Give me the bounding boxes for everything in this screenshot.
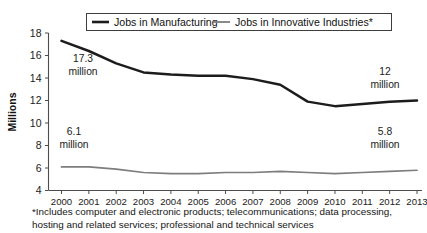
chart-axes [49,33,423,191]
x-tick-label: 2013 [406,196,427,207]
x-tick-label: 2001 [78,196,99,207]
y-tick-label: 8 [36,139,42,151]
annotation-innovative-start-unit: million [59,139,88,150]
x-tick-label: 2006 [215,196,236,207]
y-tick-label: 14 [30,72,42,84]
annotation-manufacturing-end-unit: million [370,79,399,90]
chart-canvas: Jobs in Manufacturing Jobs in Innovative… [0,0,427,233]
chart-annotations: 17.3 million 12 million 6.1 million 5.8 … [59,53,399,150]
legend-label-innovative: Jobs in Innovative Industries* [235,16,373,28]
annotation-innovative-start-value: 6.1 [67,126,82,137]
footnote-line-2: hosting and related services; profession… [32,219,314,230]
series-line-innovative [62,167,418,174]
chart-footnote: *Includes computer and electronic produc… [32,206,392,230]
y-tick-label: 16 [30,49,42,61]
footnote-line-1: *Includes computer and electronic produc… [32,206,392,217]
x-tick-label: 2002 [106,196,127,207]
chart-legend: Jobs in Manufacturing Jobs in Innovative… [87,14,392,31]
x-tick-label: 2012 [379,196,400,207]
legend-label-manufacturing: Jobs in Manufacturing [114,16,218,28]
y-tick-label: 10 [30,117,42,129]
y-tick-label: 12 [30,94,42,106]
y-axis-title: Millions [6,92,18,131]
y-tick-label: 6 [36,162,42,174]
x-tick-label: 2008 [270,196,291,207]
y-tick-label: 4 [36,184,42,196]
jobs-line-chart-figure: Jobs in Manufacturing Jobs in Innovative… [0,0,427,233]
annotation-innovative-end-unit: million [370,139,399,150]
chart-series [62,41,418,174]
x-tick-label: 2000 [51,196,72,207]
x-tick-label: 2010 [324,196,345,207]
y-axis-ticks: 1816141210864 [30,27,49,197]
x-axis-ticks: 2000200120022003200420052006200720082009… [51,191,427,207]
annotation-innovative-end-value: 5.8 [378,126,393,137]
annotation-manufacturing-start-value: 17.3 [73,53,93,64]
x-tick-label: 2011 [352,196,373,207]
x-tick-label: 2007 [242,196,263,207]
annotation-manufacturing-start-unit: million [68,66,97,77]
y-tick-label: 18 [30,27,42,39]
annotation-manufacturing-end-value: 12 [379,66,391,77]
x-tick-label: 2004 [160,196,182,207]
x-tick-label: 2005 [188,196,209,207]
series-line-manufacturing [62,41,418,106]
x-tick-label: 2003 [133,196,154,207]
x-tick-label: 2009 [297,196,318,207]
